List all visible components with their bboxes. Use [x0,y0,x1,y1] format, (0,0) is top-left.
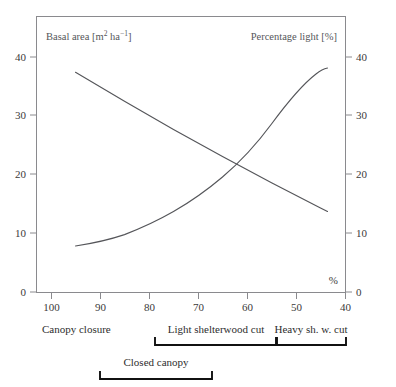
region-label-closed-canopy: Closed canopy [123,356,189,368]
left-axis-title-superscript-minus1: −1 [120,29,128,38]
right-tick-label: 0 [356,286,362,298]
left-axis-title-mid: ha [107,31,120,42]
region-label-canopy-closure: Canopy closure [42,323,111,335]
left-axis-title-suffix: ] [128,31,132,42]
left-tick-label: 10 [15,227,27,239]
x-tick-label: 80 [144,301,156,313]
right-tick-label: 40 [356,51,368,63]
x-tick-label: 60 [242,301,254,313]
chart-svg: 40 30 20 10 0 40 30 20 10 0 [0,0,396,387]
right-tick-label: 10 [356,227,368,239]
x-tick-label: 90 [95,301,107,313]
left-tick-label: 30 [15,109,27,121]
figure-container: 40 30 20 10 0 40 30 20 10 0 [0,0,396,387]
x-tick-label: 100 [43,301,60,313]
left-tick-label: 0 [21,286,27,298]
percent-unit-label: % [329,274,338,286]
left-tick-label: 20 [15,168,27,180]
region-label-heavy-shelterwood-cut: Heavy sh. w. cut [275,323,348,335]
x-tick-label: 40 [340,301,352,313]
right-tick-label: 20 [356,168,368,180]
right-axis-title: Percentage light [%] [251,31,337,42]
region-label-light-shelterwood-cut: Light shelterwood cut [168,323,265,335]
left-axis-title-prefix: Basal area [m [46,31,104,42]
x-tick-label: 70 [193,301,205,313]
x-tick-label: 50 [291,301,303,313]
right-tick-label: 30 [356,109,368,121]
left-tick-label: 40 [15,51,27,63]
left-axis-title: Basal area [m2 ha−1] [46,29,132,42]
